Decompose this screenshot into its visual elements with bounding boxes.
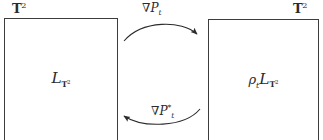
arrow-forward: [124, 24, 197, 41]
arrow-backward-subscript: t: [171, 111, 174, 120]
arrow-forward-label: ∇Pt: [142, 2, 161, 17]
arrow-forward-subscript: t: [158, 8, 161, 17]
arrow-backward-label: ∇P*t: [151, 104, 174, 120]
diagram-canvas: T2 T2 LT2 ρtLT2 ∇Pt ∇P*t: [0, 0, 323, 140]
